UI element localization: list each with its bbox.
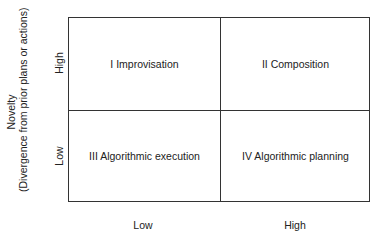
y-axis-title: Novelty xyxy=(5,32,17,192)
x-tick-high: High xyxy=(255,219,335,231)
quadrant-algorithmic-execution: III Algorithmic execution xyxy=(69,110,220,202)
quadrant-improvisation: I Improvisation xyxy=(69,18,220,110)
quadrant-composition: II Composition xyxy=(220,18,371,110)
quadrant-algorithmic-planning: IV Algorithmic planning xyxy=(220,110,371,202)
matrix-grid: I Improvisation II Composition III Algor… xyxy=(68,17,370,202)
y-axis-subtitle: (Divergence from prior plans or actions) xyxy=(17,32,29,192)
y-tick-high: High xyxy=(53,43,65,83)
y-tick-low: Low xyxy=(53,136,65,176)
x-tick-low: Low xyxy=(103,219,183,231)
y-axis-label: Novelty (Divergence from prior plans or … xyxy=(5,32,29,192)
